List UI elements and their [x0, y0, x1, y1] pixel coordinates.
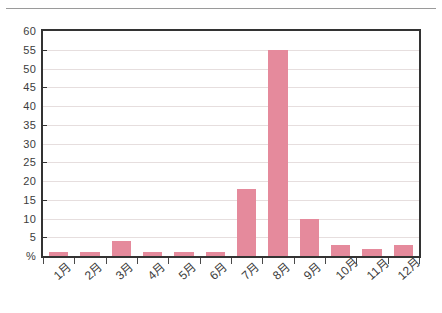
x-axis-tick-label: 9月	[299, 257, 324, 282]
y-axis-tick-label: 15	[2, 195, 36, 206]
x-axis-tick-label: 8月	[268, 257, 293, 282]
bar	[143, 252, 162, 256]
x-axis-tick-label: 1月	[49, 257, 74, 282]
x-axis-tick-label: 7月	[237, 257, 262, 282]
y-axis-tick-label: 35	[2, 120, 36, 131]
bar	[206, 252, 225, 256]
bar	[268, 50, 287, 256]
top-divider	[6, 8, 436, 9]
x-axis-tick-label: 4月	[143, 257, 168, 282]
x-axis-tick-label: 11月	[362, 254, 392, 283]
x-axis-labels: 1月2月3月4月5月6月7月8月9月10月11月12月	[41, 258, 421, 313]
x-axis-tick-label: 5月	[174, 257, 199, 282]
y-axis-tick-label: 20	[2, 176, 36, 187]
y-axis-tick-label: 60	[2, 26, 36, 37]
y-axis-tick-label: 30	[2, 139, 36, 150]
y-axis-tick-label: 5	[2, 232, 36, 243]
chart-page: 60555045403530252015105% 1月2月3月4月5月6月7月8…	[0, 0, 442, 313]
y-axis-tick-label: %	[2, 251, 36, 262]
y-axis-tick-label: 50	[2, 64, 36, 75]
y-axis-tick-label: 25	[2, 157, 36, 168]
y-axis-tick-label: 10	[2, 214, 36, 225]
x-axis-tick-label: 2月	[80, 257, 105, 282]
bar	[112, 241, 131, 256]
bar	[174, 252, 193, 256]
y-axis-tick-label: 55	[2, 45, 36, 56]
y-axis-tick-label: 45	[2, 82, 36, 93]
bar	[49, 252, 68, 256]
bar	[300, 219, 319, 257]
x-axis-tick-label: 10月	[331, 253, 361, 283]
y-axis-tick-label: 40	[2, 101, 36, 112]
bars-container	[43, 31, 419, 256]
bar	[80, 252, 99, 256]
x-axis-tick-label: 6月	[205, 257, 230, 282]
x-axis-tick-label: 12月	[393, 253, 423, 283]
bar	[237, 189, 256, 257]
x-axis-tick-label: 3月	[111, 257, 136, 282]
